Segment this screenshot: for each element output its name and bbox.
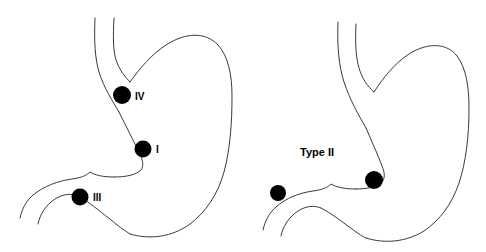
antrum-superior-border-right-panel xyxy=(276,184,356,207)
esophagus-right-wall xyxy=(113,18,130,82)
ulcer-label-type-iii: III xyxy=(93,192,102,203)
fundus-greater-curvature xyxy=(130,35,232,237)
esophagus-right-wall-right-panel xyxy=(356,24,374,92)
left-stomach-panel: IV I III xyxy=(20,18,232,237)
fundus-greater-curvature-right-panel xyxy=(366,46,469,242)
ulcer-marker-type-iii xyxy=(72,189,89,206)
ulcer-marker-type-iv xyxy=(113,86,131,104)
stomach-diagram-canvas: IV I III Type II xyxy=(0,0,486,252)
duodenum-inferior-wall-right-panel xyxy=(281,206,321,236)
ulcer-marker-type-i xyxy=(135,141,152,158)
figure-root: IV I III Type II xyxy=(0,0,486,252)
ulcer-label-type-iv: IV xyxy=(135,91,145,102)
duodenal-bulb-superior-wall-right-panel xyxy=(263,207,276,230)
antrum-inferior-border-right-panel xyxy=(321,208,366,238)
right-stomach-panel: Type II xyxy=(263,22,469,241)
ulcer-label-type-i: I xyxy=(156,144,159,155)
panel-caption-type-ii: Type II xyxy=(300,146,334,158)
ulcer-marker-type-ii-gastric xyxy=(365,171,383,189)
ulcer-marker-type-ii-duodenal xyxy=(270,185,286,201)
duodenal-bulb-superior-wall xyxy=(20,195,33,218)
